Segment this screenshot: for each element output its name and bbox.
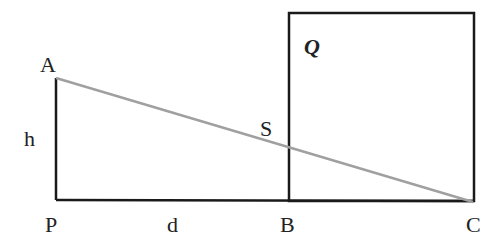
geometry-figure: A h P d B C S Q [0, 0, 504, 248]
label-p: P [45, 212, 57, 237]
label-c: C [466, 212, 481, 237]
label-b: B [280, 212, 295, 237]
label-s: S [260, 116, 272, 141]
label-d: d [167, 212, 178, 237]
label-h: h [24, 126, 35, 151]
diagram-canvas: A h P d B C S Q [0, 0, 504, 248]
label-q: Q [304, 34, 320, 59]
label-a: A [40, 52, 56, 77]
